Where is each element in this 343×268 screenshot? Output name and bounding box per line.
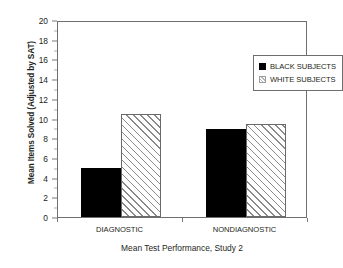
- bar: [121, 114, 161, 217]
- legend-label-black-subjects: BLACK SUBJECTS: [270, 62, 336, 71]
- x-category-label: NONDIAGNOSTIC: [213, 225, 276, 234]
- y-tick-label: 4: [8, 174, 48, 184]
- legend-item-black-subjects: BLACK SUBJECTS: [259, 60, 336, 73]
- legend-swatch-black-subjects: [259, 63, 266, 70]
- y-axis-ticks: 02468101214161820: [0, 21, 57, 218]
- x-tick-mark: [307, 218, 308, 222]
- y-tick-label: 0: [8, 213, 48, 223]
- plot-area: BLACK SUBJECTS WHITE SUBJECTS: [57, 21, 307, 218]
- y-tick-label: 16: [8, 55, 48, 65]
- legend-item-white-subjects: WHITE SUBJECTS: [259, 73, 336, 86]
- y-tick-label: 10: [8, 115, 48, 125]
- y-tick-label: 14: [8, 75, 48, 85]
- x-tick-mark: [57, 218, 58, 222]
- bar-group-container: [58, 22, 306, 217]
- legend-swatch-white-subjects: [259, 76, 266, 83]
- y-tick-label: 6: [8, 154, 48, 164]
- legend-label-white-subjects: WHITE SUBJECTS: [270, 75, 336, 84]
- bar: [81, 168, 121, 217]
- y-tick-label: 18: [8, 36, 48, 46]
- bar: [206, 129, 246, 217]
- y-tick-label: 8: [8, 134, 48, 144]
- x-category-label: DIAGNOSTIC: [96, 225, 143, 234]
- x-tick-mark: [182, 218, 183, 222]
- chart-legend: BLACK SUBJECTS WHITE SUBJECTS: [253, 55, 343, 91]
- y-tick-label: 12: [8, 95, 48, 105]
- x-axis-title: Mean Test Performance, Study 2: [57, 243, 307, 253]
- y-tick-label: 20: [8, 16, 48, 26]
- y-tick-label: 2: [8, 193, 48, 203]
- bar: [246, 124, 286, 217]
